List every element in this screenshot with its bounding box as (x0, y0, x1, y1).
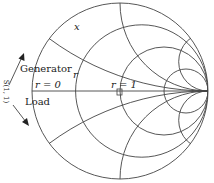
label-r0: r = 0 (35, 80, 61, 90)
load-arrowhead-icon (22, 118, 29, 126)
load-arrow (13, 105, 26, 122)
generator-arrowhead-icon (19, 53, 25, 61)
reactance-arc-neg-1 (120, 91, 214, 183)
label-r1: r = 1 (111, 80, 137, 90)
label-x: x (74, 22, 80, 32)
label-r-arc: r (73, 70, 78, 80)
label-s11: S(1, 1) (2, 80, 9, 104)
smith-chart (0, 0, 214, 183)
reactance-arc-pos-1 (120, 0, 214, 91)
label-generator: Generator (20, 64, 72, 74)
reactance-arc-pos-0-33 (0, 0, 214, 91)
label-load: Load (25, 97, 50, 107)
